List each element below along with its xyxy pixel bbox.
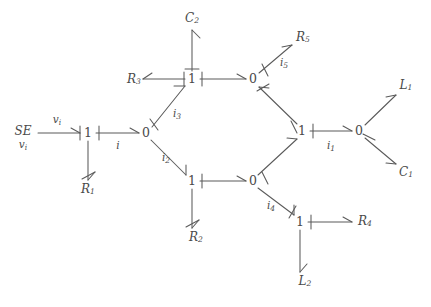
flow-label-i1: i1 bbox=[327, 139, 335, 153]
element-label-c1: C1 bbox=[399, 165, 413, 180]
junction-j1: 1 bbox=[84, 125, 92, 140]
half-arrow-se-to-j1 bbox=[71, 128, 80, 133]
bond-graph-svg: SE vi 1 0 1 0 1 0 1 0 1 R1 R2 R3 R4 R5 C… bbox=[0, 0, 431, 307]
bond-j6-to-j7 bbox=[258, 139, 297, 175]
junction-j2: 0 bbox=[142, 125, 150, 140]
bond-j6-to-j9 bbox=[258, 188, 294, 215]
source-se-label: SE bbox=[15, 124, 32, 138]
causal-stroke-j6-left bbox=[262, 172, 268, 184]
bond-graph-canvas: SE vi 1 0 1 0 1 0 1 0 1 R1 R2 R3 R4 R5 C… bbox=[0, 0, 431, 307]
junction-j3: 1 bbox=[188, 71, 196, 86]
element-label-c2: C2 bbox=[185, 11, 199, 26]
junction-nodes: 1 0 1 0 1 0 1 0 1 bbox=[84, 71, 363, 229]
element-label-r5: R5 bbox=[295, 30, 310, 45]
half-arrow-j3-to-c2 bbox=[192, 30, 200, 38]
element-label-r2: R2 bbox=[188, 230, 203, 245]
element-label-r3: R3 bbox=[126, 72, 141, 87]
flow-label-i3: i3 bbox=[173, 107, 181, 121]
half-arrow-j6-to-j7 bbox=[287, 138, 297, 139]
source-se: SE vi bbox=[15, 124, 32, 152]
bond-half-arrows bbox=[71, 30, 396, 272]
junction-j9: 1 bbox=[296, 214, 304, 229]
junction-j6: 0 bbox=[249, 173, 257, 188]
half-arrow-j5-to-j6 bbox=[237, 176, 246, 181]
flow-label-i: i bbox=[116, 139, 119, 151]
flow-label-i5: i5 bbox=[280, 56, 288, 70]
element-label-r4: R4 bbox=[357, 214, 372, 229]
junction-j7: 1 bbox=[298, 123, 306, 138]
bond-lines bbox=[38, 30, 396, 272]
causal-stroke-j8-c1 bbox=[363, 134, 375, 140]
flow-label-i2: i2 bbox=[162, 151, 170, 165]
half-arrow-j3-to-j4 bbox=[237, 74, 246, 79]
element-label-l2: L2 bbox=[298, 274, 312, 289]
half-arrow-j3-to-r3 bbox=[143, 73, 152, 79]
half-arrow-j7-to-j8 bbox=[343, 126, 352, 131]
bond-j8-to-l1 bbox=[365, 95, 396, 125]
source-se-subscript: vi bbox=[19, 138, 28, 152]
flow-label-vi: vi bbox=[53, 113, 62, 127]
element-labels: R1 R2 R3 R4 R5 C1 C2 L1 L2 bbox=[80, 11, 413, 289]
element-label-l1: L1 bbox=[399, 78, 413, 93]
half-arrow-j1-to-r1 bbox=[88, 172, 95, 180]
half-arrow-j9-to-r4 bbox=[343, 217, 352, 222]
half-arrow-j9-to-l2 bbox=[300, 264, 307, 272]
junction-j8: 0 bbox=[355, 123, 363, 138]
junction-j4: 0 bbox=[249, 71, 257, 86]
half-arrow-j1-to-j2 bbox=[130, 128, 139, 133]
element-label-r1: R1 bbox=[80, 182, 95, 197]
flow-label-i4: i4 bbox=[267, 199, 275, 213]
bond-j8-to-c1 bbox=[365, 138, 396, 164]
half-arrow-j5-to-r2 bbox=[192, 220, 199, 228]
junction-j5: 1 bbox=[188, 173, 196, 188]
bond-j7-to-j4 bbox=[259, 87, 297, 124]
